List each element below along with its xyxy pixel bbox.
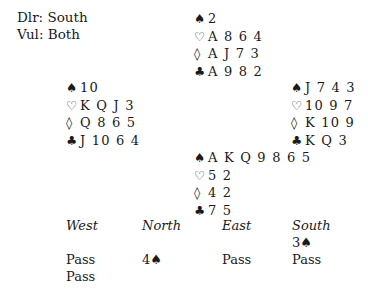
spade-icon: ♠ <box>291 79 305 97</box>
bid-south-1: 3♠ <box>292 235 312 250</box>
west-hearts: ♡K Q J 3 <box>66 97 140 115</box>
club-icon: ♣ <box>66 132 80 150</box>
diamond-icon: ◊ <box>194 184 208 202</box>
header-east: East <box>222 218 251 233</box>
heart-icon: ♡ <box>66 97 80 115</box>
east-diamonds: ◊K 10 9 <box>291 114 356 132</box>
south-diamonds: ◊4 2 <box>194 184 311 202</box>
west-spades: ♠10 <box>66 79 140 97</box>
club-icon: ♣ <box>194 63 208 81</box>
west-clubs: ♣J 10 6 4 <box>66 132 140 150</box>
spade-icon: ♠ <box>194 10 208 28</box>
deal-info: Dlr: South Vul: Both <box>17 9 88 43</box>
heart-icon: ♡ <box>194 28 208 46</box>
diamond-icon: ◊ <box>66 114 80 132</box>
bid-east-1: Pass <box>222 252 251 267</box>
club-icon: ♣ <box>291 132 305 150</box>
east-clubs: ♣K Q 3 <box>291 132 356 150</box>
north-spades: ♠2 <box>194 10 263 28</box>
east-hand: ♠J 7 4 3 ♡10 9 7 ◊K 10 9 ♣K Q 3 <box>291 79 356 149</box>
north-clubs: ♣A 9 8 2 <box>194 63 263 81</box>
bid-south-2: Pass <box>292 252 321 267</box>
south-hand: ♠A K Q 9 8 6 5 ♡5 2 ◊4 2 ♣7 5 <box>194 149 311 219</box>
vulnerability-label: Vul: Both <box>17 26 88 43</box>
header-west: West <box>66 218 98 233</box>
club-icon: ♣ <box>194 202 208 220</box>
south-spades: ♠A K Q 9 8 6 5 <box>194 149 311 167</box>
west-hand: ♠10 ♡K Q J 3 ◊Q 8 6 5 ♣J 10 6 4 <box>66 79 140 149</box>
south-hearts: ♡5 2 <box>194 167 311 185</box>
heart-icon: ♡ <box>194 167 208 185</box>
dealer-label: Dlr: South <box>17 9 88 26</box>
heart-icon: ♡ <box>291 97 305 115</box>
diamond-icon: ◊ <box>291 114 305 132</box>
west-diamonds: ◊Q 8 6 5 <box>66 114 140 132</box>
bid-west-1: Pass <box>66 252 95 267</box>
east-hearts: ♡10 9 7 <box>291 97 356 115</box>
south-clubs: ♣7 5 <box>194 202 311 220</box>
north-hearts: ♡A 8 6 4 <box>194 28 263 46</box>
header-south: South <box>292 218 331 233</box>
header-north: North <box>142 218 181 233</box>
bid-north-1: 4♠ <box>142 252 162 267</box>
diamond-icon: ◊ <box>194 45 208 63</box>
east-spades: ♠J 7 4 3 <box>291 79 356 97</box>
north-hand: ♠2 ♡A 8 6 4 ◊A J 7 3 ♣A 9 8 2 <box>194 10 263 80</box>
north-diamonds: ◊A J 7 3 <box>194 45 263 63</box>
spade-icon: ♠ <box>194 149 208 167</box>
bid-west-2: Pass <box>66 269 95 284</box>
spade-icon: ♠ <box>66 79 80 97</box>
